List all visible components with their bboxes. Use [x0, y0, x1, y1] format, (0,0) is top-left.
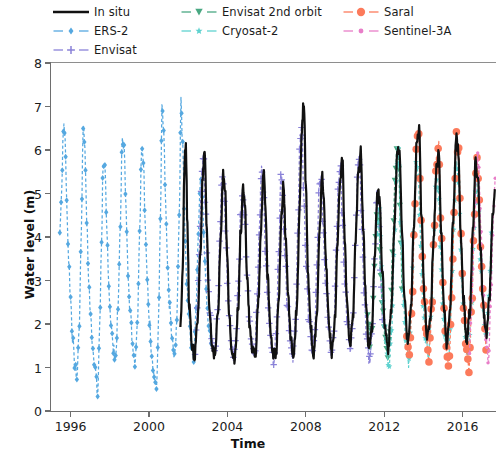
y-axis-title: Water level (m): [22, 170, 37, 320]
series-ers-2: [58, 97, 213, 399]
chart-plot-area: [0, 0, 496, 455]
water-level-time-series-figure: In situEnvisat 2nd orbitSaralERS-2Cryosa…: [0, 0, 496, 455]
x-axis-title: Time: [0, 436, 496, 451]
